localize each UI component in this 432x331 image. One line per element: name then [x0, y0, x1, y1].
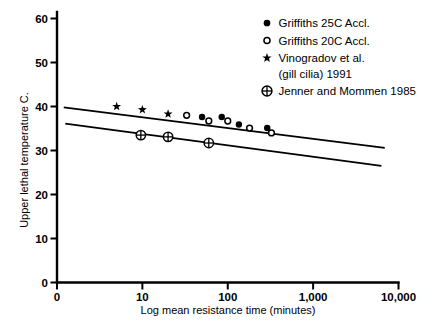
legend-label: Vinogradov et al. [279, 52, 365, 64]
data-point-open-circle [247, 125, 253, 131]
y-tick-label: 40 [35, 101, 48, 113]
data-point-circle-plus [163, 132, 172, 141]
data-point-open-circle [225, 118, 231, 124]
data-point-asterisk [138, 105, 147, 114]
data-point-open-circle [269, 130, 275, 136]
upper-regression-line [64, 107, 385, 147]
data-point-filled-circle [236, 121, 242, 127]
legend-label: (gill cilia) 1991 [279, 68, 353, 80]
data-point-filled-circle [199, 114, 205, 120]
y-tick-label: 50 [35, 57, 48, 69]
data-point-asterisk [164, 109, 173, 118]
legend-label: Jenner and Mommen 1985 [279, 85, 416, 97]
circle-plus-icon [262, 86, 272, 96]
y-tick-label: 0 [42, 277, 48, 289]
chart-svg: 01020304050600101001,00010,000 Griffiths… [0, 0, 432, 331]
data-point-asterisk [112, 102, 121, 111]
lower-regression-line [65, 124, 381, 166]
x-tick-label: 1,000 [299, 291, 328, 303]
data-point-circle-plus [204, 138, 213, 147]
x-tick-label: 10 [136, 291, 149, 303]
x-tick-label: 0 [54, 291, 60, 303]
legend-item: Griffiths 25C Accl. [264, 17, 370, 29]
asterisk-icon [262, 53, 271, 62]
data-point-circle-plus [136, 130, 145, 139]
data-point-open-circle [184, 112, 190, 118]
y-tick-label: 20 [35, 189, 48, 201]
chart-figure: 01020304050600101001,00010,000 Griffiths… [0, 0, 432, 331]
y-tick-label: 60 [35, 13, 48, 25]
legend: Griffiths 25C Accl.Griffiths 20C Accl.Vi… [262, 17, 416, 97]
legend-item: Griffiths 20C Accl. [264, 35, 370, 47]
filled-circle-icon [264, 20, 271, 27]
y-axis-title: Upper lethal temperature C. [18, 92, 30, 228]
y-tick-label: 10 [35, 233, 48, 245]
legend-item: Jenner and Mommen 1985 [262, 85, 416, 97]
data-point-filled-circle [219, 114, 225, 120]
y-tick-label: 30 [35, 145, 48, 157]
open-circle-icon [264, 37, 270, 43]
x-axis-title: Log mean resistance time (minutes) [141, 304, 316, 316]
legend-item: Vinogradov et al.(gill cilia) 1991 [262, 52, 364, 80]
x-tick-label: 10,000 [381, 291, 416, 303]
legend-label: Griffiths 25C Accl. [279, 17, 370, 29]
data-point-open-circle [206, 118, 212, 124]
x-tick-label: 100 [218, 291, 237, 303]
legend-label: Griffiths 20C Accl. [279, 35, 370, 47]
